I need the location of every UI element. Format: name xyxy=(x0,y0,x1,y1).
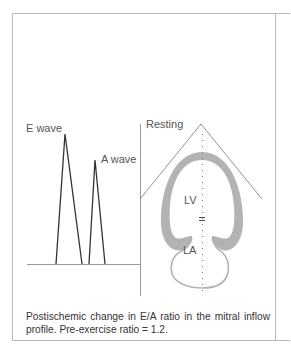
figure-frame xyxy=(13,14,291,341)
resting-label: Resting xyxy=(146,118,183,130)
left-ventricle-wall xyxy=(161,152,243,250)
a-wave-label: A wave xyxy=(101,153,136,165)
lv-label: LV xyxy=(184,194,197,206)
e-wave-label: E wave xyxy=(26,122,62,134)
la-label: LA xyxy=(183,244,196,256)
figure-caption: Postischemic change in E/A ratio in the … xyxy=(26,310,270,336)
echo-sector xyxy=(140,124,262,292)
sector-outline xyxy=(140,124,262,199)
diagram-canvas xyxy=(0,0,290,351)
e-wave-peak xyxy=(56,134,82,264)
a-wave-peak xyxy=(89,160,105,264)
figure: E wave A wave Resting LV LA Postischemic… xyxy=(0,0,290,351)
